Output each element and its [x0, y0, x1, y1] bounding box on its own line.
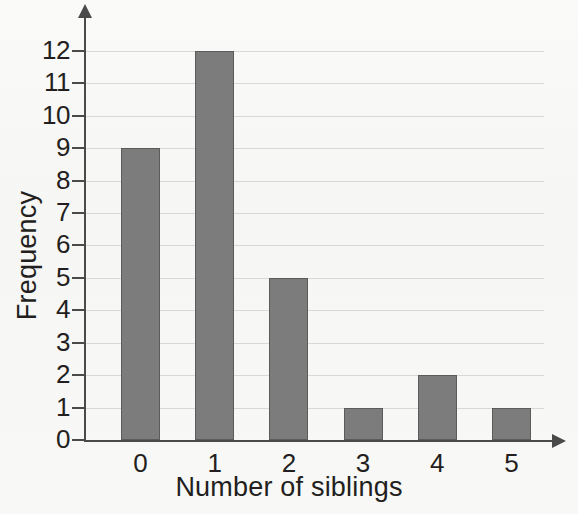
y-tick-label: 1 — [10, 394, 70, 420]
bar — [418, 375, 457, 440]
y-tick-mark — [72, 374, 84, 376]
bar — [492, 408, 531, 440]
y-axis-line — [84, 14, 86, 442]
y-tick-label: 0 — [10, 426, 70, 452]
y-axis-arrow-icon — [78, 4, 92, 18]
bar — [195, 51, 234, 440]
y-tick-mark — [72, 82, 84, 84]
y-tick-mark — [72, 342, 84, 344]
y-tick-mark — [72, 180, 84, 182]
y-tick-mark — [72, 407, 84, 409]
x-axis-arrow-icon — [552, 434, 566, 448]
plot-area: 0123456789101112 012345 Number of siblin… — [0, 0, 578, 514]
gridline — [85, 83, 544, 84]
y-tick-mark — [72, 147, 84, 149]
bar — [269, 278, 308, 440]
gridline — [85, 51, 544, 52]
x-axis-line — [84, 440, 554, 442]
y-tick-label: 11 — [10, 69, 70, 95]
x-axis-title: Number of siblings — [0, 472, 578, 503]
y-tick-mark — [72, 439, 84, 441]
gridline — [85, 116, 544, 117]
y-tick-mark — [72, 309, 84, 311]
bar — [344, 408, 383, 440]
y-tick-mark — [72, 277, 84, 279]
bar — [121, 148, 160, 440]
y-tick-mark — [72, 115, 84, 117]
y-tick-mark — [72, 244, 84, 246]
y-axis-title: Frequency — [12, 136, 43, 376]
y-tick-mark — [72, 212, 84, 214]
y-tick-label: 12 — [10, 37, 70, 63]
chart-figure: 0123456789101112 012345 Number of siblin… — [0, 0, 578, 514]
y-tick-mark — [72, 50, 84, 52]
y-tick-label: 10 — [10, 102, 70, 128]
